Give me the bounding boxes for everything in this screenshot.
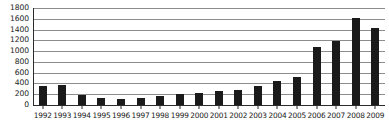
x-tickmark <box>218 106 219 109</box>
x-tick-label: 2006 <box>308 112 326 120</box>
x-tick-label: 1997 <box>132 112 150 120</box>
bar <box>352 18 360 105</box>
bar-slot <box>229 8 249 105</box>
bar <box>371 28 379 105</box>
x-tickmark <box>160 106 161 109</box>
x-tick-label: 2002 <box>229 112 247 120</box>
bar-slot <box>189 8 209 105</box>
x-tick-label: 1992 <box>34 112 52 120</box>
bar <box>137 98 145 105</box>
x-tickmark <box>277 106 278 109</box>
x-tickmark <box>140 106 141 109</box>
x-tickmark <box>316 106 317 109</box>
x-tickmark <box>179 106 180 109</box>
bar <box>273 81 281 105</box>
y-tick-label: 1000 <box>10 47 29 55</box>
bar-slot <box>307 8 327 105</box>
x-tick-label: 1996 <box>112 112 130 120</box>
bar-slot <box>287 8 307 105</box>
x-tickmark <box>238 106 239 109</box>
bar <box>78 95 86 105</box>
x-tick-label: 1999 <box>171 112 189 120</box>
bar-slot <box>365 8 385 105</box>
bar-slot <box>150 8 170 105</box>
x-tick-label: 2003 <box>249 112 267 120</box>
y-tick-label: 400 <box>15 80 29 88</box>
x-tickmark <box>81 106 82 109</box>
bar <box>254 86 262 105</box>
x-tick-label: 1998 <box>151 112 169 120</box>
bar-slot <box>111 8 131 105</box>
bar <box>195 93 203 105</box>
bar <box>215 91 223 105</box>
x-tickmark <box>336 106 337 109</box>
y-axis-tick-labels: 020040060080010001200140016001800 <box>0 0 31 112</box>
y-tick-label: 1200 <box>10 37 29 45</box>
y-tick-label: 200 <box>15 90 29 98</box>
x-tickmark <box>355 106 356 109</box>
bar-slot <box>170 8 190 105</box>
bar-slot <box>92 8 112 105</box>
y-tick-label: 1400 <box>10 26 29 34</box>
bar-slot <box>131 8 151 105</box>
bar-slot <box>346 8 366 105</box>
bar-slot <box>326 8 346 105</box>
y-tick-label: 1600 <box>10 15 29 23</box>
bar-slot <box>248 8 268 105</box>
y-tick-label: 0 <box>24 101 29 109</box>
bar <box>176 94 184 105</box>
bar <box>234 90 242 105</box>
bar <box>39 86 47 105</box>
x-tick-label: 2007 <box>327 112 345 120</box>
x-tickmark <box>101 106 102 109</box>
bar <box>293 77 301 105</box>
y-axis-line <box>33 8 34 106</box>
bar <box>58 85 66 105</box>
x-tickmark <box>62 106 63 109</box>
bar <box>117 99 125 105</box>
bar <box>97 98 105 105</box>
bar-slot <box>72 8 92 105</box>
bar-chart: 020040060080010001200140016001800 199219… <box>0 0 389 128</box>
x-tick-label: 2001 <box>210 112 228 120</box>
x-tick-label: 1994 <box>73 112 91 120</box>
y-tick-label: 600 <box>15 69 29 77</box>
bar-slot <box>53 8 73 105</box>
bar-slot <box>209 8 229 105</box>
x-tickmark <box>42 106 43 109</box>
x-tick-label: 2005 <box>288 112 306 120</box>
bars-layer <box>33 8 385 105</box>
bar-slot <box>268 8 288 105</box>
x-tick-label: 1993 <box>53 112 71 120</box>
y-tick-label: 800 <box>15 58 29 66</box>
bar <box>156 96 164 105</box>
bar-slot <box>33 8 53 105</box>
x-tick-label: 2000 <box>190 112 208 120</box>
x-tick-label: 2008 <box>347 112 365 120</box>
x-tick-label: 2004 <box>268 112 286 120</box>
x-tickmark <box>257 106 258 109</box>
x-tick-label: 2009 <box>366 112 384 120</box>
y-tick-label: 1800 <box>10 4 29 12</box>
x-tickmark <box>199 106 200 109</box>
plot-area <box>33 8 385 105</box>
x-tickmark <box>375 106 376 109</box>
bar <box>332 41 340 105</box>
x-tickmark <box>297 106 298 109</box>
x-tickmark <box>121 106 122 109</box>
x-tick-label: 1995 <box>92 112 110 120</box>
x-axis-tick-labels: 1992199319941995199619971998199920002001… <box>33 106 385 126</box>
bar <box>313 47 321 105</box>
